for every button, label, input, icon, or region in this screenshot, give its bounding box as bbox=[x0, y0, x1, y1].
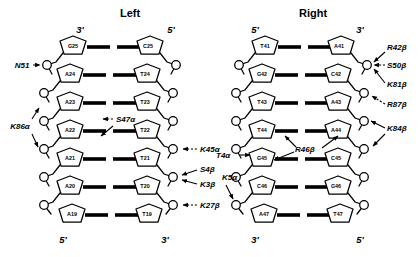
base-label: A44 bbox=[331, 127, 341, 133]
residue-label-r87b: R87β bbox=[387, 100, 407, 109]
phosphate-right-0 bbox=[172, 61, 181, 70]
phosphate-rp-right-2 bbox=[360, 117, 369, 126]
phosphate-right-4 bbox=[169, 173, 178, 182]
residue-label-k5a: K5α bbox=[222, 173, 238, 182]
strand-right-backbone-right-panel: A41 C42 A43 A44 C45 G46 T47 bbox=[325, 36, 371, 222]
arrow-r87b bbox=[372, 96, 385, 104]
phosphate-rp-left-2 bbox=[232, 117, 241, 126]
residue-label-r42b: R42β bbox=[387, 43, 407, 52]
panel-left-bottom-left-end: 5' bbox=[59, 234, 67, 245]
arrow-k84b-lower bbox=[373, 134, 385, 146]
arrow-r42b bbox=[374, 52, 385, 62]
residue-label-k86a: K86α bbox=[10, 122, 31, 131]
phosphate-left-1 bbox=[40, 89, 49, 98]
panel-right-bottom-right-end: 5' bbox=[356, 234, 364, 245]
base-label: A41 bbox=[334, 43, 344, 49]
phosphate-right-5 bbox=[169, 201, 178, 210]
residue-label-s50b: S50β bbox=[387, 61, 406, 70]
phosphate-rp-right-3 bbox=[360, 145, 369, 154]
panel-left-top-left-end: 3' bbox=[76, 24, 84, 35]
arrow-r46b-to-t44 bbox=[285, 136, 296, 147]
base-label: A47 bbox=[259, 211, 269, 217]
arrow-k3b bbox=[182, 180, 197, 184]
base-label: T44 bbox=[257, 127, 266, 133]
panel-left: Left 3' 5' 5' 3' bbox=[10, 7, 220, 245]
strand-left-backbone: G25 A24 A23 A22 A21 A20 A19 bbox=[40, 36, 86, 222]
panel-left-title: Left bbox=[120, 7, 141, 19]
base-label: T23 bbox=[140, 99, 149, 105]
residue-label-s47a: S47α bbox=[116, 115, 136, 124]
residue-label-t4a: T4α bbox=[216, 151, 231, 160]
phosphate-left-5 bbox=[40, 201, 49, 210]
base-label: A43 bbox=[331, 99, 341, 105]
base-label: C42 bbox=[331, 71, 341, 77]
arrow-k5a bbox=[226, 185, 233, 199]
phosphate-left-0 bbox=[43, 61, 52, 70]
residue-label-r46b: R46β bbox=[295, 145, 315, 154]
residue-label-k81b: K81β bbox=[387, 80, 407, 89]
phosphate-rp-left-5 bbox=[232, 201, 241, 210]
phosphate-left-2 bbox=[40, 117, 49, 126]
arrow-k84b-upper bbox=[371, 121, 385, 128]
phosphate-rp-left-0 bbox=[235, 61, 244, 70]
base-pair-bonds-right bbox=[275, 47, 331, 215]
base-label: G25 bbox=[68, 43, 78, 49]
base-label: T43 bbox=[257, 99, 266, 105]
base-label: A21 bbox=[65, 155, 75, 161]
strand-right-backbone: C25 T24 T23 T22 T21 T20 T19 bbox=[134, 36, 180, 222]
residue-label-k84b: K84β bbox=[387, 124, 407, 133]
annotations-right-panel-right-side: R42β S50β K81β R87β K84β bbox=[371, 43, 407, 146]
phosphate-left-4 bbox=[40, 173, 49, 182]
residue-label-s4b: S4β bbox=[200, 165, 215, 174]
base-label: A20 bbox=[65, 183, 75, 189]
base-label: T20 bbox=[140, 183, 149, 189]
phosphate-right-3 bbox=[169, 145, 178, 154]
base-pair-bonds-left bbox=[83, 47, 140, 215]
base-label: C45 bbox=[331, 155, 341, 161]
panel-left-bottom-right-end: 3' bbox=[161, 234, 169, 245]
phosphate-rp-right-4 bbox=[360, 173, 369, 182]
panel-right-top-left-end: 5' bbox=[251, 24, 259, 35]
phosphate-left-3 bbox=[40, 145, 49, 154]
base-label: A24 bbox=[65, 71, 75, 77]
residue-label-n51: N51 bbox=[15, 61, 30, 70]
base-label: T24 bbox=[140, 71, 149, 77]
phosphate-rp-right-5 bbox=[360, 201, 369, 210]
base-label: C25 bbox=[143, 43, 153, 49]
base-label: T47 bbox=[333, 211, 342, 217]
base-label: G42 bbox=[257, 71, 267, 77]
base-label: G46 bbox=[331, 183, 341, 189]
panel-right-title: Right bbox=[299, 7, 327, 19]
base-label: A23 bbox=[65, 99, 75, 105]
arrow-s4b bbox=[182, 170, 197, 175]
panel-right-bottom-left-end: 3' bbox=[251, 234, 259, 245]
phosphate-right-2 bbox=[169, 117, 178, 126]
phosphate-rp-left-1 bbox=[232, 89, 241, 98]
base-label: G45 bbox=[257, 155, 267, 161]
arrow-k86a-upper bbox=[32, 108, 39, 119]
base-label: T22 bbox=[140, 127, 149, 133]
base-label: A19 bbox=[67, 211, 77, 217]
arrow-k81b bbox=[374, 69, 385, 83]
residue-label-k3b: K3β bbox=[200, 180, 215, 189]
base-label: C46 bbox=[257, 183, 267, 189]
base-label: A22 bbox=[65, 127, 75, 133]
base-label: T19 bbox=[142, 211, 151, 217]
annotations-left-panel-right-side: K45α S4β K3β K27β bbox=[182, 145, 221, 210]
phosphate-right-1 bbox=[169, 89, 178, 98]
panel-right-top-right-end: 3' bbox=[356, 24, 364, 35]
panel-right: Right 5' 3' 3' 5' bbox=[216, 7, 407, 245]
residue-label-k27b: K27β bbox=[200, 201, 220, 210]
phosphate-rp-left-3 bbox=[232, 145, 241, 154]
base-label: T41 bbox=[260, 43, 269, 49]
base-label: T21 bbox=[140, 155, 149, 161]
strand-left-backbone-right-panel: T41 G42 T43 T44 G45 C46 A47 bbox=[232, 36, 278, 222]
panel-left-top-right-end: 5' bbox=[167, 24, 175, 35]
arrow-k86a-lower bbox=[32, 134, 38, 147]
phosphate-rp-right-1 bbox=[360, 89, 369, 98]
dna-contact-diagram: Left 3' 5' 5' 3' bbox=[0, 0, 419, 257]
phosphate-rp-right-0 bbox=[363, 61, 372, 70]
